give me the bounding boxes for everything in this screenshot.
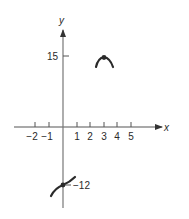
x-tick-label: −2 xyxy=(26,131,38,142)
y-tick-label-15: 15 xyxy=(47,51,59,62)
intercept-label: −12 xyxy=(73,180,90,191)
x-tick-label: 1 xyxy=(74,131,80,142)
chart-canvas: x y −2 −1 1 2 3 4 5 15 −12 xyxy=(0,0,189,219)
x-tick-label: 3 xyxy=(101,131,107,142)
x-ticks xyxy=(35,122,131,127)
max-point-marker xyxy=(102,55,107,60)
x-axis-label: x xyxy=(163,122,170,133)
x-tick-label: 2 xyxy=(87,131,93,142)
x-tick-label: 4 xyxy=(114,131,120,142)
x-tick-label: 5 xyxy=(128,131,134,142)
x-tick-label: −1 xyxy=(41,131,53,142)
x-tick-labels: −2 −1 1 2 3 4 5 xyxy=(26,131,134,142)
intercept-point-marker xyxy=(61,183,66,188)
y-axis-label: y xyxy=(58,15,65,26)
